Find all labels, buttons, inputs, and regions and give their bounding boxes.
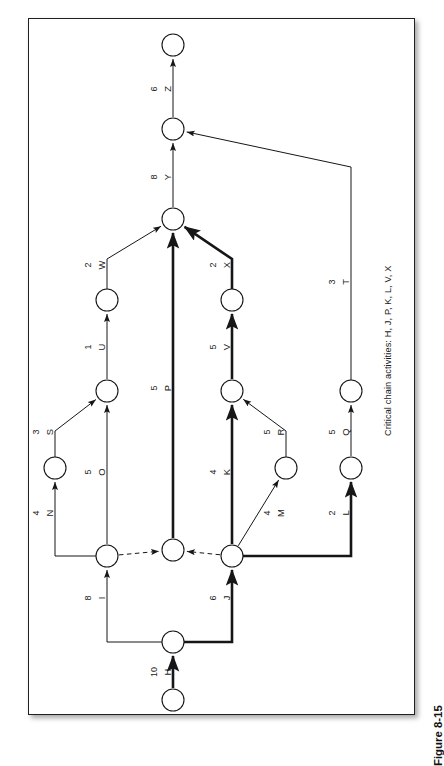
edge-label-P: 5P	[149, 385, 173, 391]
edge-label-T: 3T	[327, 279, 351, 285]
edge-name-R: R	[275, 428, 286, 435]
node-n_N	[44, 457, 66, 479]
node-n_I	[96, 545, 118, 567]
edge-name-O: O	[96, 468, 107, 475]
edge-M	[238, 480, 278, 546]
edge-name-V: V	[221, 343, 232, 350]
edge-label-L: 2L	[327, 510, 351, 515]
edge-label-H: 10H	[149, 667, 173, 677]
node-n_merge	[162, 208, 184, 230]
node-n_P0	[162, 539, 184, 561]
node-n_Y	[162, 118, 184, 140]
edge-label-X: 2X	[208, 261, 232, 268]
edge-T	[187, 132, 351, 380]
edges-layer	[55, 59, 351, 688]
edge-duration-U: 1	[83, 344, 93, 349]
edge-R	[243, 399, 286, 457]
edge-name-M: M	[275, 509, 286, 517]
edge-label-N: 4N	[31, 510, 55, 517]
edge-label-Q: 5Q	[327, 428, 351, 435]
figure-number: Figure 8-15	[432, 705, 444, 766]
node-n_M	[275, 457, 297, 479]
edge-duration-M: 4	[262, 510, 272, 515]
edge-duration-H: 10	[149, 667, 159, 677]
edge-I	[107, 570, 162, 642]
edge-name-K: K	[221, 468, 232, 475]
labels-layer: 10H8I6J4N5O3S5P4K4M2L5R5Q1U5V3T2W2X8Y6Z	[31, 86, 351, 677]
edge-duration-Q: 5	[327, 429, 337, 434]
edge-name-Q: Q	[340, 428, 351, 435]
edge-duration-R: 5	[262, 429, 272, 434]
edge-name-W: W	[96, 260, 107, 269]
edge-duration-X: 2	[208, 262, 218, 267]
edge-X	[185, 227, 232, 289]
figure-caption: Critical chain activities: H, J, P, K, L…	[383, 266, 393, 436]
edge-name-I: I	[96, 597, 107, 600]
edge-duration-S: 3	[31, 429, 41, 434]
edge-name-U: U	[96, 343, 107, 350]
edge-W	[107, 226, 161, 289]
node-n_end	[162, 34, 184, 56]
node-n_U	[96, 289, 118, 311]
edge-label-S: 3S	[31, 429, 55, 435]
edge-duration-K: 4	[208, 469, 218, 474]
edge-label-I: 8I	[83, 595, 107, 600]
edge-name-T: T	[340, 279, 351, 285]
edge-name-P: P	[162, 385, 173, 391]
edge-name-X: X	[221, 261, 232, 268]
edge-name-L: L	[340, 510, 351, 515]
edge-label-M: 4M	[262, 509, 286, 517]
node-n_V	[221, 289, 243, 311]
edge-duration-N: 4	[31, 510, 41, 515]
edge-label-U: 1U	[83, 343, 107, 350]
edge-d1	[119, 551, 159, 555]
edge-duration-L: 2	[327, 510, 337, 515]
edge-duration-P: 5	[149, 385, 159, 390]
edge-duration-V: 5	[208, 344, 218, 349]
edge-label-K: 4K	[208, 468, 232, 475]
node-n_K	[221, 380, 243, 402]
edge-name-Y: Y	[162, 173, 173, 180]
edge-N	[55, 482, 96, 556]
edge-J	[184, 570, 232, 642]
node-n_L	[340, 457, 362, 479]
edge-L	[243, 482, 351, 556]
edge-duration-T: 3	[327, 279, 337, 284]
edge-name-S: S	[44, 429, 55, 435]
edge-duration-Z: 6	[149, 86, 159, 91]
node-n_J	[221, 545, 243, 567]
edge-S	[55, 400, 96, 457]
edge-label-J: 6J	[208, 595, 232, 600]
edge-label-O: 5O	[83, 468, 107, 475]
edge-duration-I: 8	[83, 595, 93, 600]
edge-label-Y: 8Y	[149, 173, 173, 180]
node-n_start	[162, 689, 184, 711]
edge-duration-W: 2	[83, 262, 93, 267]
node-n_HJ	[162, 631, 184, 653]
edge-name-J: J	[221, 596, 232, 601]
edge-label-Z: 6Z	[149, 86, 173, 92]
node-n_O	[96, 380, 118, 402]
edge-label-R: 5R	[262, 428, 286, 435]
edge-duration-J: 6	[208, 595, 218, 600]
edge-duration-Y: 8	[149, 174, 159, 179]
edge-label-V: 5V	[208, 343, 232, 350]
edge-name-N: N	[44, 510, 55, 517]
edge-name-H: H	[162, 669, 173, 676]
edge-name-Z: Z	[162, 86, 173, 92]
edge-duration-O: 5	[83, 469, 93, 474]
edge-label-W: 2W	[83, 260, 107, 269]
node-n_Q	[340, 380, 362, 402]
edge-d2	[187, 551, 220, 554]
